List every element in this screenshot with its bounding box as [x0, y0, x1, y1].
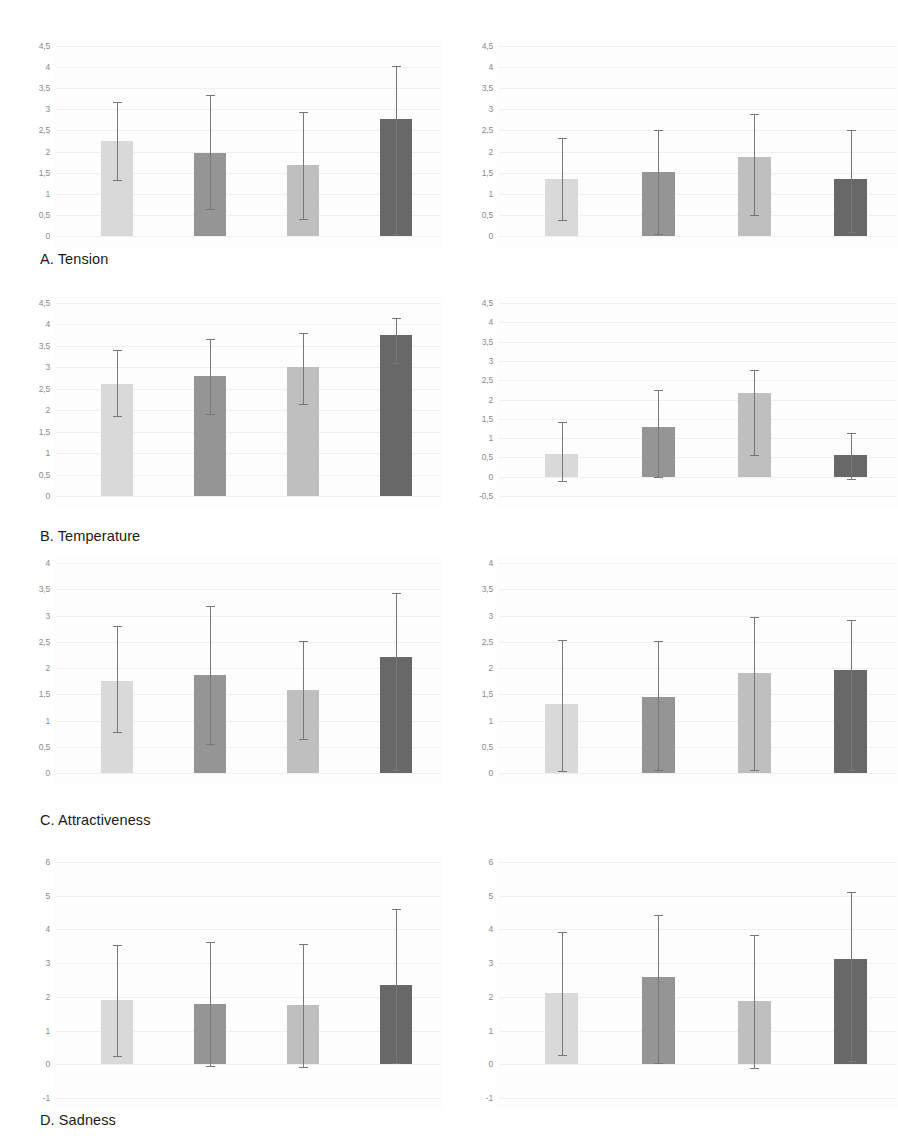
bar [738, 393, 771, 477]
y-axis-tick-label: 0 [449, 1059, 493, 1069]
y-axis-tick-label: -1 [449, 1093, 493, 1103]
y-axis-tick-label: 2 [449, 395, 493, 405]
error-bar-cap-upper [750, 114, 759, 115]
bar [194, 1004, 226, 1065]
y-axis-tick-label: 3,5 [449, 337, 493, 347]
plot-area [54, 297, 442, 508]
bar [287, 367, 319, 496]
y-axis-tick-label: 2 [449, 147, 493, 157]
gridline [56, 1031, 440, 1032]
error-bar-cap-lower [847, 479, 856, 480]
y-axis-tick-label: 3,5 [449, 584, 493, 594]
gridline [56, 694, 440, 695]
gridline [56, 1064, 440, 1065]
gridline [56, 589, 440, 590]
error-bar-cap-upper [206, 942, 215, 943]
bar [380, 985, 412, 1064]
error-bar-cap-lower [392, 234, 401, 235]
bar [834, 959, 867, 1064]
error-bar-cap-upper [750, 935, 759, 936]
panel-caption-c: C. Attractiveness [40, 812, 151, 828]
y-axis-tick-label: 1 [6, 448, 50, 458]
y-axis-tick-label: 2,5 [449, 125, 493, 135]
error-bar-line [754, 114, 755, 215]
gridline [56, 668, 440, 669]
gridline [56, 496, 440, 497]
error-bar-cap-lower [392, 1063, 401, 1064]
y-axis-tick-label: 1 [6, 716, 50, 726]
y-axis-tick-label: 5 [449, 891, 493, 901]
gridline [499, 194, 896, 195]
y-axis-tick-label: 0 [449, 768, 493, 778]
y-axis-tick-label: 3,5 [6, 584, 50, 594]
y-axis-tick-label: 0 [449, 231, 493, 241]
error-bar-cap-lower [299, 404, 308, 405]
bar [738, 673, 771, 773]
y-axis-tick-label: 1 [449, 433, 493, 443]
gridline [56, 1098, 440, 1099]
y-axis-tick-label: 1 [6, 1026, 50, 1036]
error-bar-line [562, 932, 563, 1055]
error-bar-line [658, 641, 659, 771]
y-axis-tick-label: 1 [449, 716, 493, 726]
y-axis-tick-label: 2 [6, 405, 50, 415]
error-bar-line [851, 433, 852, 478]
gridline [499, 109, 896, 110]
y-axis-tick-label: 2 [6, 663, 50, 673]
error-bar-cap-lower [392, 770, 401, 771]
error-bar-cap-lower [558, 220, 567, 221]
gridline [499, 721, 896, 722]
gridline [499, 862, 896, 863]
bar [642, 697, 675, 773]
error-bar-cap-upper [113, 626, 122, 627]
error-bar-line [303, 112, 304, 219]
error-bar-line [754, 935, 755, 1067]
y-axis-tick-label: 2 [449, 992, 493, 1002]
gridline [499, 46, 896, 47]
error-bar-line [117, 626, 118, 732]
error-bar-line [658, 130, 659, 233]
error-bar-cap-upper [654, 390, 663, 391]
gridline [499, 303, 896, 304]
error-bar-cap-lower [113, 416, 122, 417]
error-bar-line [851, 130, 852, 232]
y-axis-tick-label: 4 [449, 924, 493, 934]
error-bar-cap-lower [206, 209, 215, 210]
gridline [56, 721, 440, 722]
bar [380, 119, 412, 236]
gridline [499, 361, 896, 362]
gridline [499, 88, 896, 89]
gridline [499, 1064, 896, 1065]
plot-area [54, 40, 442, 248]
gridline [499, 380, 896, 381]
error-bar-cap-upper [206, 95, 215, 96]
error-bar-cap-lower [206, 1066, 215, 1067]
bar [380, 657, 412, 773]
y-axis-tick-label: 0 [6, 231, 50, 241]
y-axis-tick-label: 0 [449, 472, 493, 482]
gridline [56, 152, 440, 153]
gridline [56, 563, 440, 564]
bar [738, 157, 771, 236]
gridline [499, 642, 896, 643]
gridline [499, 589, 896, 590]
y-axis-tick-label: 0,5 [6, 470, 50, 480]
gridline [499, 896, 896, 897]
y-axis-tick-label: 3 [6, 611, 50, 621]
error-bar-line [303, 944, 304, 1067]
y-axis-tick-label: 1,5 [6, 689, 50, 699]
gridline [499, 173, 896, 174]
y-axis-tick-label: 4 [6, 62, 50, 72]
error-bar-cap-lower [113, 180, 122, 181]
error-bar-line [562, 422, 563, 481]
gridline [56, 475, 440, 476]
error-bar-cap-upper [750, 617, 759, 618]
gridline [499, 563, 896, 564]
bar [834, 670, 867, 773]
bar [101, 1000, 133, 1064]
y-axis-tick-label: 1,5 [6, 427, 50, 437]
